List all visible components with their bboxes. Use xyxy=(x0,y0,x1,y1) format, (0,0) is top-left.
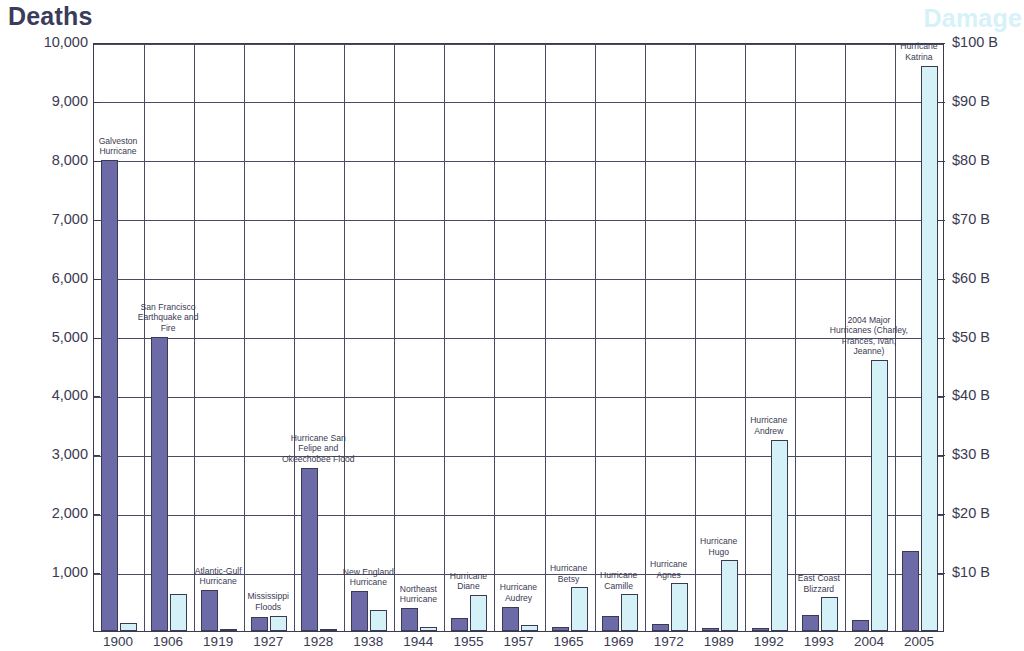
y-axis-right-tick-label: $50 B xyxy=(952,330,990,345)
category-separator xyxy=(144,44,145,631)
y-axis-right-tick-label: $60 B xyxy=(952,271,990,286)
damage-bar[interactable] xyxy=(370,610,387,631)
y-axis-left-tick-label: 1,000 xyxy=(52,565,88,580)
damage-bar[interactable] xyxy=(320,629,337,631)
deaths-bar[interactable] xyxy=(101,160,118,631)
y-axis-right-tick-label: $40 B xyxy=(952,388,990,403)
damage-bar[interactable] xyxy=(420,627,437,631)
y-axis-left-tick-label: 4,000 xyxy=(52,388,88,403)
damage-bar[interactable] xyxy=(270,616,287,631)
y-axis-right-tickmark xyxy=(938,161,945,162)
y-axis-left-tick-label: 6,000 xyxy=(52,271,88,286)
damage-bar[interactable] xyxy=(621,594,638,631)
bar-annotation-line: Blizzard xyxy=(749,584,889,595)
y-axis-left-tickmark xyxy=(93,514,100,515)
y-axis-left-tick-label: 7,000 xyxy=(52,212,88,227)
deaths-bar[interactable] xyxy=(602,616,619,631)
deaths-bar[interactable] xyxy=(151,337,168,632)
y-axis-left-tick-label: 10,000 xyxy=(44,35,88,50)
deaths-bar[interactable] xyxy=(702,628,719,631)
y-axis-left-tickmark xyxy=(93,279,100,280)
gridline xyxy=(94,515,943,516)
bar-annotation: East CoastBlizzard xyxy=(749,573,889,594)
damage-bar[interactable] xyxy=(521,625,538,631)
x-axis-tick-label: 1927 xyxy=(243,634,293,649)
bar-annotation: HurricaneHugo xyxy=(649,536,789,557)
x-axis-tick-label: 1965 xyxy=(544,634,594,649)
bar-annotation-line: San Francisco xyxy=(98,302,238,313)
y-axis-right-tickmark xyxy=(938,220,945,221)
x-axis-tick-label: 1928 xyxy=(293,634,343,649)
y-axis-right-tickmark xyxy=(938,573,945,574)
y-axis-right-tickmark xyxy=(938,279,945,280)
y-axis-right-tick-label: $70 B xyxy=(952,212,990,227)
bar-annotation: Hurricane SanFelipe andOkeechobee Flood xyxy=(248,433,388,465)
x-axis-tick-label: 1992 xyxy=(744,634,794,649)
y-axis-right-tickmark xyxy=(938,102,945,103)
y-axis-right-tickmark xyxy=(938,514,945,515)
category-separator xyxy=(545,44,546,631)
bar-annotation-line: Katrina xyxy=(849,52,989,63)
bar-annotation-line: Hurricanes (Charley, xyxy=(799,325,939,336)
gridline xyxy=(94,456,943,457)
gridline xyxy=(94,102,943,103)
gridline xyxy=(94,397,943,398)
bar-annotation-line: Hurricane xyxy=(599,559,739,570)
y-axis-left-tick-label: 5,000 xyxy=(52,330,88,345)
y-axis-left-tickmark xyxy=(93,161,100,162)
x-axis-tick-label: 1919 xyxy=(193,634,243,649)
y-axis-left-tickmark xyxy=(93,396,100,397)
x-axis-tick-label: 1993 xyxy=(794,634,844,649)
bar-annotation: GalvestonHurricane xyxy=(48,136,188,157)
deaths-bar[interactable] xyxy=(552,627,569,631)
category-separator xyxy=(244,44,245,631)
y-axis-right-tick-label: $20 B xyxy=(952,506,990,521)
deaths-bar[interactable] xyxy=(502,607,519,632)
y-axis-right-tick-label: $90 B xyxy=(952,94,990,109)
bar-annotation-line: Galveston xyxy=(48,136,188,147)
bar-annotation-line: Hurricane xyxy=(699,415,839,426)
deaths-bar[interactable] xyxy=(451,618,468,631)
category-separator xyxy=(344,44,345,631)
y-axis-right-tick-label: $30 B xyxy=(952,447,990,462)
deaths-bar[interactable] xyxy=(852,620,869,631)
y-axis-right-tick-label: $10 B xyxy=(952,565,990,580)
bar-annotation-line: Camille xyxy=(549,581,689,592)
x-axis-tick-label: 1906 xyxy=(143,634,193,649)
x-axis-tick-label: 2005 xyxy=(894,634,944,649)
category-separator xyxy=(795,44,796,631)
bar-annotation-line: Okeechobee Flood xyxy=(248,454,388,465)
damage-bar[interactable] xyxy=(120,623,137,631)
bar-annotation: 2004 MajorHurricanes (Charley,Frances, I… xyxy=(799,315,939,357)
x-axis-tick-label: 2004 xyxy=(844,634,894,649)
deaths-bar[interactable] xyxy=(652,624,669,631)
bar-annotation-line: Atlantic-Gulf xyxy=(148,566,288,577)
y-axis-right-tickmark xyxy=(938,338,945,339)
category-separator xyxy=(494,44,495,631)
damage-bar[interactable] xyxy=(821,597,838,631)
damage-bar[interactable] xyxy=(170,594,187,631)
y-axis-left-tickmark xyxy=(93,338,100,339)
bar-annotation-line: Felipe and xyxy=(248,443,388,454)
deaths-bar[interactable] xyxy=(251,617,268,631)
y-axis-right-tickmark xyxy=(938,396,945,397)
bar-annotation-line: Mississippi xyxy=(198,591,338,602)
damage-bar[interactable] xyxy=(220,629,237,631)
deaths-bar[interactable] xyxy=(752,628,769,631)
bar-annotation-line: Earthquake and xyxy=(98,312,238,323)
deaths-axis-title: Deaths xyxy=(8,2,93,31)
x-axis-tick-label: 1989 xyxy=(694,634,744,649)
bar-annotation-line: Agnes xyxy=(599,570,739,581)
deaths-bar[interactable] xyxy=(802,615,819,631)
deaths-bar[interactable] xyxy=(401,608,418,631)
y-axis-left-tickmark xyxy=(93,455,100,456)
chart-stage: Deaths Damage 1,0002,0003,0004,0005,0006… xyxy=(0,0,1024,651)
y-axis-left-tick-label: 9,000 xyxy=(52,94,88,109)
bar-annotation-line: East Coast xyxy=(749,573,889,584)
y-axis-left-tickmark xyxy=(93,43,100,44)
category-separator xyxy=(595,44,596,631)
bar-annotation: HurricaneKatrina xyxy=(849,41,989,62)
bar-annotation: Atlantic-GulfHurricane xyxy=(148,566,288,587)
gridline xyxy=(94,279,943,280)
deaths-bar[interactable] xyxy=(902,551,919,631)
